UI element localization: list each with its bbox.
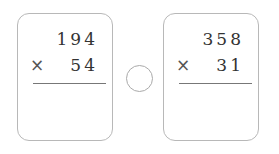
multiplicand: 194	[57, 29, 98, 49]
comparison-circle[interactable]	[126, 65, 153, 92]
multiplier: 31	[216, 55, 244, 75]
problem-card-1: 194 × 54	[17, 13, 113, 141]
multiplicand: 358	[203, 29, 244, 49]
multiply-sign: ×	[30, 55, 44, 75]
answer-line	[179, 83, 252, 84]
multiply-sign: ×	[176, 55, 190, 75]
problem-card-2: 358 × 31	[163, 13, 259, 141]
multiplier: 54	[70, 55, 98, 75]
answer-line	[33, 83, 106, 84]
